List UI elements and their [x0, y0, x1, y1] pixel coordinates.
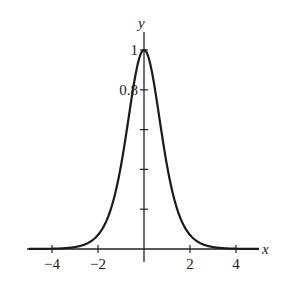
- chart: −4−224 0.81 x y: [0, 0, 282, 297]
- x-tick-label: −4: [44, 256, 60, 272]
- y-tick-label: 1: [131, 42, 139, 58]
- x-tick-label: 4: [232, 256, 240, 272]
- x-tick-label: −2: [90, 256, 106, 272]
- axes: [27, 32, 258, 262]
- y-tick-label: 0.8: [119, 82, 138, 98]
- x-axis-label: x: [261, 241, 269, 257]
- x-tick-label: 2: [186, 256, 194, 272]
- y-axis-label: y: [136, 15, 145, 31]
